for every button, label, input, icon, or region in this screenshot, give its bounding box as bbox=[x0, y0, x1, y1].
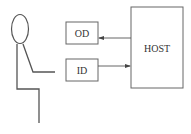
host-box: HOST bbox=[131, 7, 183, 88]
od-label: OD bbox=[75, 28, 89, 39]
od-box: OD bbox=[66, 22, 98, 44]
id-box: ID bbox=[66, 59, 98, 81]
person-head bbox=[12, 15, 29, 44]
person-figure bbox=[12, 15, 56, 124]
person-arm bbox=[23, 44, 55, 72]
id-label: ID bbox=[77, 65, 88, 76]
host-label: HOST bbox=[144, 43, 170, 54]
diagram-canvas: OD ID HOST bbox=[0, 0, 191, 134]
person-body bbox=[17, 44, 39, 123]
